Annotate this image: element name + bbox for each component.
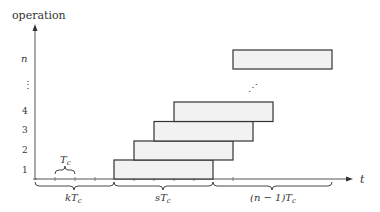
y-axis	[33, 24, 38, 180]
row-label-n: n	[21, 53, 27, 64]
diagonal-ellipsis: ⋰	[248, 82, 258, 93]
x-axis-arrow-icon	[346, 177, 353, 182]
operation-bar-2	[134, 141, 233, 160]
y-axis-arrow-icon	[33, 24, 38, 31]
row-label-vdots: ⋮	[23, 79, 33, 90]
brace-tc-label: Tc	[60, 154, 71, 167]
brace-stc-label: sTc	[155, 192, 171, 205]
y-axis-label: operation	[12, 9, 66, 22]
brace-stc	[114, 182, 213, 190]
row-label-4: 4	[22, 106, 28, 116]
brace-n-minus-1-tc	[213, 182, 332, 190]
brace-n-minus-1-tc-label: (n − 1)Tc	[250, 192, 296, 205]
row-label-1: 1	[22, 165, 28, 175]
x-axis-label: t	[360, 173, 365, 186]
operation-bar-3	[154, 122, 253, 142]
operation-bar-n	[233, 50, 332, 69]
row-label-3: 3	[22, 125, 28, 135]
brace-tc	[55, 166, 75, 174]
brace-ktc	[35, 182, 114, 190]
operation-bar-1	[114, 160, 213, 179]
pipeline-diagram: operation t 1 2 3 4 ⋮ n ⋰ Tc	[0, 0, 380, 212]
row-label-2: 2	[22, 145, 28, 155]
operation-bars	[114, 50, 332, 179]
row-labels: 1 2 3 4 ⋮ n	[21, 53, 33, 175]
brace-ktc-label: kTc	[65, 192, 82, 205]
operation-bar-4	[174, 102, 273, 122]
